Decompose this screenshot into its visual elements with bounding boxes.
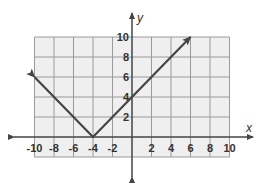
x-tick-label: 8 xyxy=(207,142,213,154)
x-tick-label: -10 xyxy=(27,142,43,154)
x-tick-label: 6 xyxy=(187,142,193,154)
coordinate-plane: -10-8-6-4-2246810 246810 x y xyxy=(0,0,263,188)
y-axis-label: y xyxy=(136,11,144,25)
x-tick-label: 2 xyxy=(148,142,154,154)
x-tick-label: 4 xyxy=(168,142,175,154)
y-tick-label: 8 xyxy=(123,51,129,63)
x-axis-label: x xyxy=(245,121,253,135)
x-tick-label: -4 xyxy=(88,142,99,154)
x-tick-label: -8 xyxy=(49,142,59,154)
x-tick-label: 10 xyxy=(223,142,235,154)
x-tick-label: -6 xyxy=(69,142,79,154)
y-tick-label: 2 xyxy=(123,111,129,123)
y-tick-label: 6 xyxy=(123,71,129,83)
x-tick-label: -2 xyxy=(108,142,118,154)
y-tick-label: 10 xyxy=(117,31,129,43)
